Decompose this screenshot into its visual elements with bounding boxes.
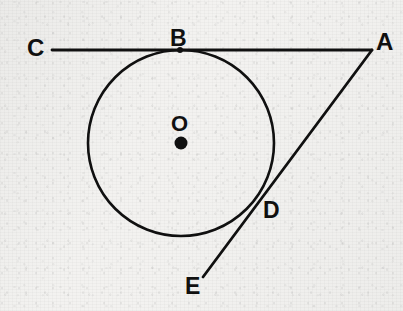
point-label-C: C [27, 36, 44, 60]
point-label-A: A [376, 30, 393, 54]
geometry-canvas [0, 0, 403, 311]
center-point-dot-O [175, 137, 188, 150]
point-label-B: B [170, 27, 187, 50]
geometry-figure: C B A O D E [0, 0, 403, 311]
figure-strokes [52, 47, 372, 277]
point-label-E: E [185, 275, 200, 298]
point-label-D: D [263, 199, 280, 222]
point-label-O: O [171, 113, 188, 135]
tangent-line-AE [203, 50, 372, 277]
